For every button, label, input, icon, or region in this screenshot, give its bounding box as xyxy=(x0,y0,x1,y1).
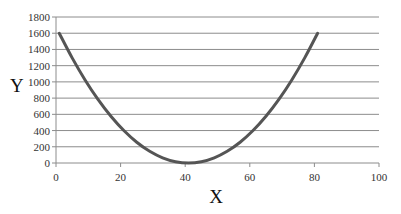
y-tick-label: 400 xyxy=(34,125,51,137)
x-tick-label: 60 xyxy=(244,171,256,183)
y-tick-label: 1000 xyxy=(28,76,51,88)
x-tick-label: 40 xyxy=(180,171,192,183)
y-tick-label: 1200 xyxy=(28,60,51,72)
x-tick-label: 0 xyxy=(53,171,59,183)
gridlines xyxy=(56,17,379,147)
y-tick-label: 1800 xyxy=(28,11,51,23)
y-axis-title: Y xyxy=(10,75,24,96)
y-tick-label: 1400 xyxy=(28,43,51,55)
axes xyxy=(56,17,379,163)
y-tick-label: 200 xyxy=(34,141,51,153)
y-tick-label: 0 xyxy=(45,157,51,169)
y-tick-label: 800 xyxy=(34,92,51,104)
y-tick-label: 600 xyxy=(34,108,51,120)
chart: 020040060080010001200140016001800 020406… xyxy=(0,0,401,214)
x-tick-label: 20 xyxy=(115,171,127,183)
x-tick-label: 100 xyxy=(371,171,388,183)
y-axis-ticks: 020040060080010001200140016001800 xyxy=(28,11,56,169)
x-axis-ticks: 020406080100 xyxy=(53,163,388,183)
y-tick-label: 1600 xyxy=(28,27,51,39)
x-axis-title: X xyxy=(209,186,223,207)
x-tick-label: 80 xyxy=(309,171,321,183)
